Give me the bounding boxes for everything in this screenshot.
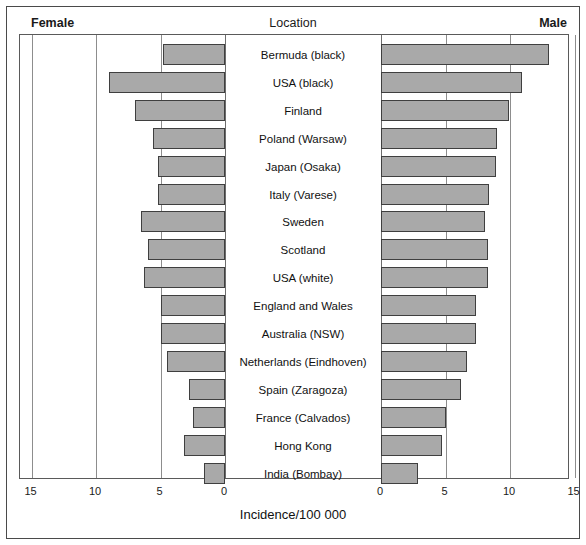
row-category-label: Hong Kong [229,432,377,460]
bar-male [381,211,485,232]
chart-row: Finland [20,97,568,125]
bar-female [153,128,225,149]
row-category-label: Spain (Zaragoza) [229,376,377,404]
bar-male [381,44,549,65]
bar-male [381,267,488,288]
bar-female [167,351,225,372]
legend-location-label: Location [7,13,579,33]
bar-male [381,295,476,316]
bar-female [189,379,225,400]
bar-female [158,156,225,177]
bar-female [161,323,226,344]
chart-row: Poland (Warsaw) [20,125,568,153]
bar-female [204,463,225,484]
row-category-label: Finland [229,97,377,125]
tick-male-15: 15 [567,485,579,497]
tick-male-10: 10 [503,485,515,497]
bar-male [381,100,509,121]
chart-row: Hong Kong [20,432,568,460]
chart-row: Sweden [20,208,568,236]
tick-male-5: 5 [441,485,447,497]
chart-row: USA (black) [20,69,568,97]
row-category-label: Australia (NSW) [229,320,377,348]
bar-female [148,239,225,260]
chart-row: India (Bombay) [20,460,568,488]
bar-male [381,407,446,428]
row-category-label: France (Calvados) [229,404,377,432]
bar-female [144,267,225,288]
chart-row: France (Calvados) [20,404,568,432]
row-category-label: England and Wales [229,292,377,320]
chart-row: England and Wales [20,292,568,320]
bar-female [141,211,225,232]
row-category-label: Bermuda (black) [229,41,377,69]
row-category-label: USA (black) [229,69,377,97]
bar-male [381,435,442,456]
gridline-male-15 [575,35,576,478]
bar-male [381,239,488,260]
bar-female [158,184,225,205]
chart-row: Japan (Osaka) [20,153,568,181]
row-category-label: Japan (Osaka) [229,153,377,181]
bar-female [161,295,226,316]
bar-male [381,72,522,93]
legend-male-label: Male [539,13,567,33]
chart-row: Bermuda (black) [20,41,568,69]
chart-row: Italy (Varese) [20,181,568,209]
bar-male [381,323,476,344]
chart-row: Scotland [20,236,568,264]
figure-frame: Female Location Male Bermuda (black)USA … [6,6,580,539]
bar-male [381,463,418,484]
bar-male [381,156,496,177]
row-category-label: USA (white) [229,264,377,292]
row-category-label: India (Bombay) [229,460,377,488]
bar-male [381,379,461,400]
bar-male [381,351,467,372]
row-category-label: Scotland [229,236,377,264]
plot-area: Bermuda (black)USA (black)FinlandPoland … [19,34,569,479]
bar-female [193,407,225,428]
tick-female-5: 5 [156,485,162,497]
row-category-label: Italy (Varese) [229,181,377,209]
bar-female [109,72,225,93]
tick-female-15: 15 [24,485,36,497]
bar-female [135,100,225,121]
row-category-label: Sweden [229,208,377,236]
row-category-label: Netherlands (Eindhoven) [229,348,377,376]
bar-female [163,44,225,65]
tick-female-0: 0 [221,485,227,497]
tick-male-0: 0 [377,485,383,497]
bar-male [381,184,489,205]
chart-row: Netherlands (Eindhoven) [20,348,568,376]
bar-female [184,435,225,456]
chart-row: Australia (NSW) [20,320,568,348]
chart-row: Spain (Zaragoza) [20,376,568,404]
row-category-label: Poland (Warsaw) [229,125,377,153]
chart-row: USA (white) [20,264,568,292]
x-axis-label: Incidence/100 000 [7,507,579,522]
bar-male [381,128,497,149]
tick-female-10: 10 [89,485,101,497]
